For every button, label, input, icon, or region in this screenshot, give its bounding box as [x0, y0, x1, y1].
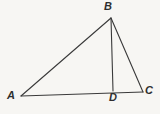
figure-background: [0, 0, 160, 114]
vertex-label-c: C: [145, 85, 153, 96]
triangle-diagram: [0, 0, 160, 114]
vertex-label-d: D: [109, 92, 117, 103]
vertex-label-a: A: [7, 90, 15, 101]
vertex-label-b: B: [104, 1, 112, 12]
geometry-figure: A B C D: [0, 0, 160, 114]
